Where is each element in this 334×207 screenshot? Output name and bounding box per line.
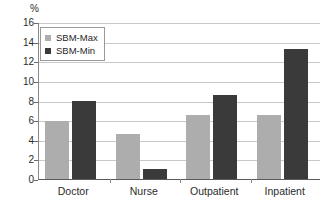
legend-item-sbm-min: SBM-Min bbox=[45, 44, 98, 57]
bar-sbm-min-nurse bbox=[143, 169, 167, 179]
y-tick-label: 16 bbox=[4, 18, 34, 28]
bar-sbm-min-outpatient bbox=[213, 95, 237, 179]
y-axis-unit-label: % bbox=[30, 3, 39, 14]
x-tick-label-nurse: Nurse bbox=[109, 184, 180, 198]
bar-sbm-max-doctor bbox=[45, 121, 69, 179]
chart-legend: SBM-MaxSBM-Min bbox=[40, 27, 105, 61]
bar-sbm-min-doctor bbox=[72, 101, 96, 180]
legend-swatch-icon bbox=[45, 48, 51, 54]
bar-sbm-max-outpatient bbox=[186, 115, 210, 179]
y-tick-label: 12 bbox=[4, 57, 34, 67]
bar-group bbox=[180, 23, 251, 179]
legend-label: SBM-Min bbox=[56, 45, 95, 56]
x-tick-label-doctor: Doctor bbox=[38, 184, 109, 198]
bar-group bbox=[110, 23, 181, 179]
legend-label: SBM-Max bbox=[56, 32, 98, 43]
legend-item-sbm-max: SBM-Max bbox=[45, 31, 98, 44]
x-tick-mark bbox=[180, 179, 181, 183]
bar-group bbox=[251, 23, 322, 179]
x-tick-label-inpatient: Inpatient bbox=[250, 184, 321, 198]
y-tick-label: 10 bbox=[4, 77, 34, 87]
bar-sbm-max-nurse bbox=[116, 134, 140, 179]
x-axis-tick-labels: DoctorNurseOutpatientInpatient bbox=[38, 184, 320, 204]
bar-chart: % 1614121086420 DoctorNurseOutpatientInp… bbox=[0, 0, 334, 207]
y-tick-label: 14 bbox=[4, 38, 34, 48]
x-tick-mark bbox=[251, 179, 252, 183]
y-tick-label: 2 bbox=[4, 155, 34, 165]
x-tick-mark bbox=[110, 179, 111, 183]
bar-sbm-max-inpatient bbox=[257, 115, 281, 179]
y-tick-label: 6 bbox=[4, 116, 34, 126]
y-tick-label: 0 bbox=[4, 175, 34, 185]
y-tick-mark bbox=[34, 180, 38, 181]
y-tick-label: 8 bbox=[4, 97, 34, 107]
y-axis-tick-labels: 1614121086420 bbox=[0, 23, 34, 180]
y-tick-label: 4 bbox=[4, 136, 34, 146]
legend-swatch-icon bbox=[45, 35, 51, 41]
x-tick-label-outpatient: Outpatient bbox=[179, 184, 250, 198]
bar-sbm-min-inpatient bbox=[284, 49, 308, 180]
